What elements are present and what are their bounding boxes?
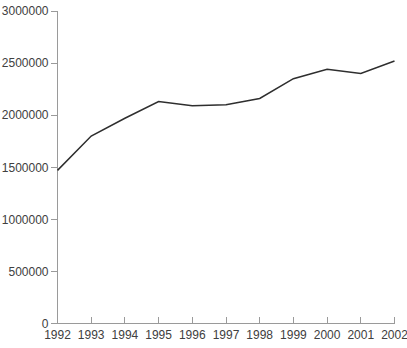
y-tick-label: 1500000	[2, 161, 49, 175]
x-tick-label: 2000	[314, 328, 341, 342]
x-tick-label: 1999	[280, 328, 307, 342]
y-tick-label: 2500000	[2, 56, 49, 70]
x-tick-label: 1997	[213, 328, 240, 342]
y-tick-label: 1000000	[2, 213, 49, 227]
x-tick-label: 1992	[44, 328, 71, 342]
x-tick-label: 1995	[145, 328, 172, 342]
data-series-line	[58, 61, 395, 170]
y-tick-label: 500000	[8, 265, 48, 279]
chart-canvas: 0500000100000015000002000000250000030000…	[0, 0, 407, 348]
y-tick-label: 2000000	[2, 108, 49, 122]
x-tick-label: 1996	[179, 328, 206, 342]
x-tick-label: 1993	[78, 328, 105, 342]
x-tick-label: 1994	[112, 328, 139, 342]
line-chart: 0500000100000015000002000000250000030000…	[0, 0, 407, 348]
x-tick-label: 2001	[347, 328, 374, 342]
x-tick-label: 1998	[246, 328, 273, 342]
y-tick-label: 3000000	[2, 4, 49, 18]
x-tick-label: 2002	[381, 328, 407, 342]
